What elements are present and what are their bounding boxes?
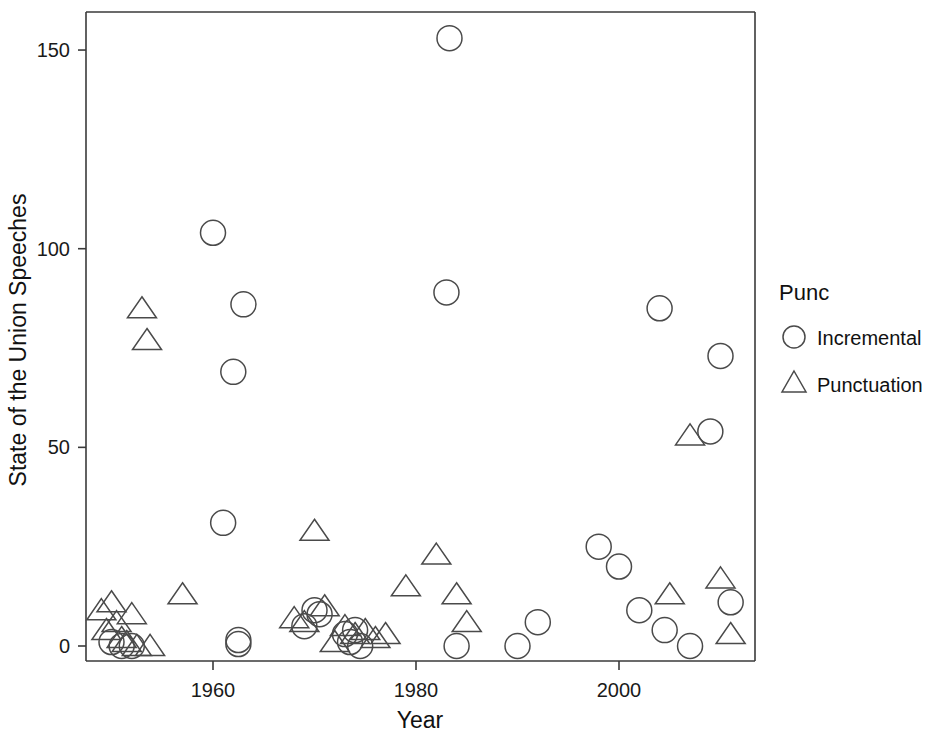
- legend-title: Punc: [779, 280, 829, 305]
- data-point-circle: [437, 26, 462, 51]
- data-point-triangle: [102, 611, 131, 632]
- data-point-triangle: [442, 583, 471, 604]
- data-point-circle: [201, 220, 226, 245]
- legend-marker-triangle-icon: [782, 371, 806, 392]
- legend: Punc Incremental Punctuation: [779, 280, 923, 396]
- legend-marker-circle-icon: [783, 326, 805, 348]
- data-point-circle: [505, 634, 530, 659]
- data-point-triangle: [168, 583, 197, 604]
- data-point-triangle: [300, 519, 329, 540]
- data-point-triangle: [422, 543, 451, 564]
- legend-label-punctuation: Punctuation: [817, 374, 923, 396]
- data-point-triangle: [133, 329, 162, 350]
- data-point-circle: [627, 598, 652, 623]
- data-point-circle: [434, 280, 459, 305]
- data-point-circle: [348, 634, 373, 659]
- data-point-circle: [678, 634, 703, 659]
- y-tick-label: 50: [48, 436, 70, 458]
- x-tick-label: 2000: [597, 679, 642, 701]
- data-point-triangle: [87, 599, 116, 620]
- data-point-triangle: [676, 424, 705, 445]
- scatter-plot: 050100150 196019802000 Year State of the…: [0, 0, 931, 741]
- data-point-circle: [231, 292, 256, 317]
- data-point-triangle: [92, 619, 121, 640]
- x-tick-label: 1980: [394, 679, 439, 701]
- x-tick-label: 1960: [191, 679, 236, 701]
- data-point-circle: [607, 554, 632, 579]
- series-incremental-points: [99, 26, 743, 659]
- data-point-circle: [444, 634, 469, 659]
- data-point-triangle: [716, 623, 745, 644]
- y-tick-label: 0: [59, 635, 70, 657]
- legend-label-incremental: Incremental: [817, 327, 922, 349]
- data-point-circle: [652, 618, 677, 643]
- y-tick-label: 150: [37, 39, 70, 61]
- data-point-circle: [708, 343, 733, 368]
- data-point-circle: [211, 510, 236, 535]
- data-point-triangle: [706, 567, 735, 588]
- data-point-circle: [586, 534, 611, 559]
- y-tick-label: 100: [37, 238, 70, 260]
- data-point-triangle: [127, 297, 156, 318]
- data-point-circle: [221, 359, 246, 384]
- data-point-circle: [718, 590, 743, 615]
- x-tick-group: 196019802000: [191, 661, 642, 701]
- data-point-triangle: [452, 611, 481, 632]
- y-tick-group: 050100150: [37, 39, 86, 657]
- axes-group: [86, 12, 755, 661]
- data-point-triangle: [655, 583, 684, 604]
- data-point-circle: [525, 610, 550, 635]
- x-axis-title: Year: [397, 707, 444, 733]
- data-point-triangle: [391, 575, 420, 596]
- data-point-circle: [647, 296, 672, 321]
- chart-root: 050100150 196019802000 Year State of the…: [0, 0, 931, 741]
- series-punctuation-points: [87, 297, 745, 656]
- data-point-triangle: [97, 591, 126, 612]
- y-axis-title: State of the Union Speeches: [5, 194, 31, 487]
